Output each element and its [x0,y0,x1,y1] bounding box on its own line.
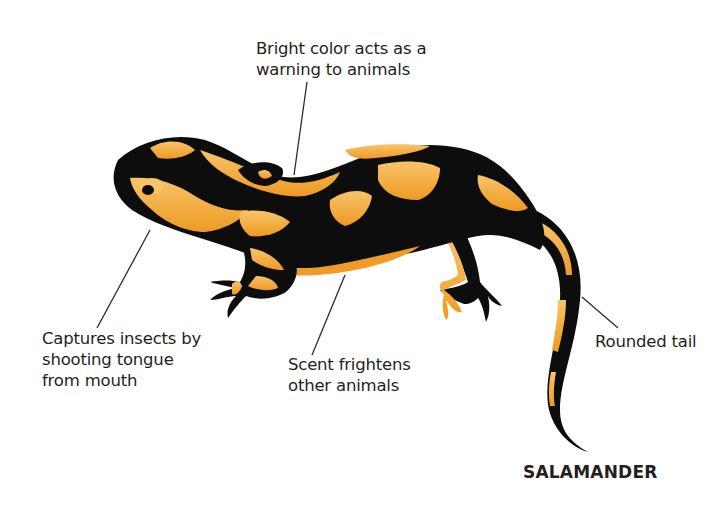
callout-scent: Scent frightens other animals [288,354,411,396]
callout-line: Rounded tail [595,331,696,352]
callout-line: shooting tongue [42,349,201,370]
callout-tail: Rounded tail [595,331,696,352]
leader-line-warning [294,82,307,175]
callout-tongue: Captures insects by shooting tongue from… [42,328,201,391]
leader-line-tail [582,297,618,328]
body [114,137,545,276]
callout-line: Bright color acts as a [256,38,426,59]
diagram-title: SALAMANDER [523,462,658,482]
callout-line: warning to animals [256,59,426,80]
callout-line: Captures insects by [42,328,201,349]
leader-line-tongue [97,230,150,328]
callout-line: Scent frightens [288,354,411,375]
eye-icon [142,185,154,195]
leader-line-scent [312,275,345,355]
callout-line: from mouth [42,370,201,391]
front-leg [210,240,297,318]
salamander-diagram: Bright color acts as a warning to animal… [0,0,713,505]
callout-line: other animals [288,375,411,396]
callout-warning-color: Bright color acts as a warning to animal… [256,38,426,80]
